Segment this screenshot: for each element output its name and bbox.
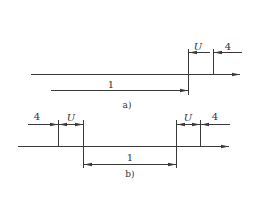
caption-b: b) bbox=[125, 169, 134, 179]
label-1-a: 1 bbox=[108, 79, 114, 90]
label-u-b-left: U bbox=[67, 112, 76, 123]
dimension-diagram: U 4 1 a) 4 U U 4 1 b) bbox=[0, 0, 259, 203]
label-4-b-left: 4 bbox=[34, 111, 40, 122]
label-u-b-right: U bbox=[184, 112, 193, 123]
label-4-a: 4 bbox=[225, 41, 231, 52]
label-4-b-right: 4 bbox=[212, 111, 218, 122]
figure-a: U 4 1 a) bbox=[31, 41, 242, 110]
figure-b: 4 U U 4 1 b) bbox=[18, 111, 230, 179]
label-1-b: 1 bbox=[127, 152, 133, 163]
caption-a: a) bbox=[123, 100, 132, 110]
label-u-a: U bbox=[194, 41, 203, 52]
